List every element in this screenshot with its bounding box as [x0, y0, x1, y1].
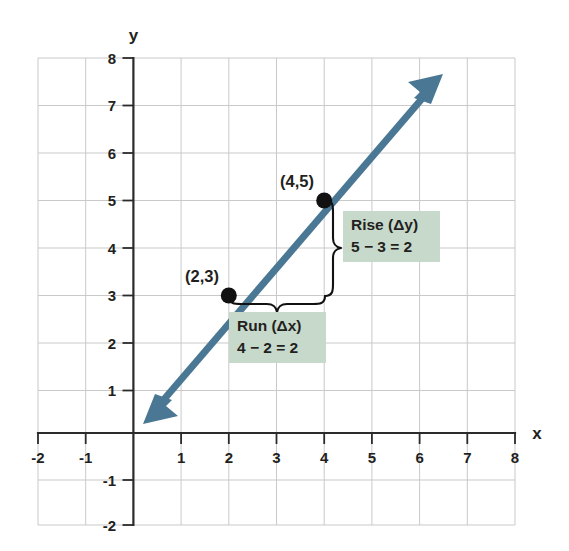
y-tick-label: 3: [108, 287, 116, 304]
point-marker-4-5: [316, 193, 332, 209]
y-axis-label: y: [129, 26, 139, 45]
x-axis-label: x: [532, 424, 542, 443]
x-tick-label: 7: [463, 449, 471, 466]
y-tick-label: 5: [108, 192, 116, 209]
point-label-2-3: (2,3): [185, 267, 219, 285]
x-tick-label: 6: [415, 449, 423, 466]
arrowhead-up-right: [408, 74, 443, 104]
y-tick-label: 7: [108, 97, 116, 114]
y-tick-labels: 8 7 6 5 4 3 2 1 -1 -2: [103, 50, 117, 534]
x-tick-label: 4: [320, 449, 329, 466]
coordinate-plane-svg: -2 -1 1 2 3 4 5 6 7 8 8 7 6 5 4 3 2 1 -1…: [0, 0, 569, 551]
point-marker-2-3: [221, 288, 237, 304]
rise-callout: Rise (Δy) 5 − 3 = 2: [343, 211, 440, 262]
x-axis-ticks: [38, 433, 515, 444]
arrowhead-down-left: [143, 394, 178, 424]
x-tick-labels: -2 -1 1 2 3 4 5 6 7 8: [31, 449, 519, 466]
y-tick-label: 4: [108, 240, 117, 257]
x-tick-label: -1: [79, 449, 92, 466]
y-axis-ticks: [123, 58, 134, 525]
x-tick-label: 8: [511, 449, 519, 466]
run-callout: Run (Δx) 4 − 2 = 2: [229, 312, 326, 363]
y-tick-label: 1: [108, 382, 116, 399]
run-callout-line2: 4 − 2 = 2: [237, 339, 298, 356]
x-tick-label: 1: [177, 449, 185, 466]
run-callout-line1: Run (Δx): [237, 317, 302, 334]
y-tick-label: 6: [108, 145, 116, 162]
x-tick-label: 2: [225, 449, 233, 466]
y-tick-label: -1: [103, 472, 116, 489]
point-label-4-5: (4,5): [280, 172, 314, 190]
rise-callout-line1: Rise (Δy): [351, 216, 418, 233]
slope-graph-figure: -2 -1 1 2 3 4 5 6 7 8 8 7 6 5 4 3 2 1 -1…: [0, 0, 569, 551]
x-tick-label: -2: [31, 449, 44, 466]
x-tick-label: 3: [272, 449, 280, 466]
x-tick-label: 5: [368, 449, 376, 466]
y-tick-label: 8: [108, 50, 116, 67]
y-tick-label: -2: [103, 517, 116, 534]
y-tick-label: 2: [108, 335, 116, 352]
rise-callout-line2: 5 − 3 = 2: [351, 238, 412, 255]
